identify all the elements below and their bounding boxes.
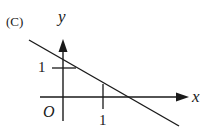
y-axis-label: y (58, 8, 66, 25)
x-axis-arrow-icon (176, 93, 189, 102)
y-tick-label: 1 (38, 60, 46, 75)
x-axis-label: x (192, 88, 200, 105)
x-tick-label: 1 (99, 113, 107, 128)
option-label: (C) (6, 15, 23, 28)
graph-figure: (C) y x 1 O 1 (0, 0, 210, 135)
y-axis-arrow-icon (59, 39, 68, 52)
origin-label: O (43, 104, 55, 120)
